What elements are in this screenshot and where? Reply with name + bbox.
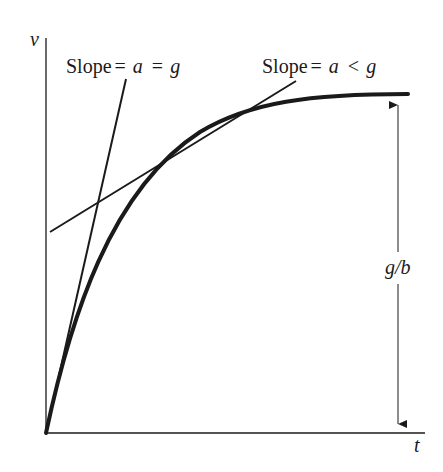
x-axis-label: t [414, 434, 420, 456]
slope-label-initial: Slope = a = g [66, 55, 180, 78]
slope-label-later: Slope = a < g [262, 55, 376, 78]
velocity-curve [46, 94, 408, 433]
later-tangent-line [50, 81, 296, 232]
terminal-velocity-label: g/b [385, 256, 411, 279]
velocity-time-diagram: v t Slope = a = g Slope = a < g g/b [0, 0, 443, 472]
y-axis-label: v [30, 28, 39, 50]
